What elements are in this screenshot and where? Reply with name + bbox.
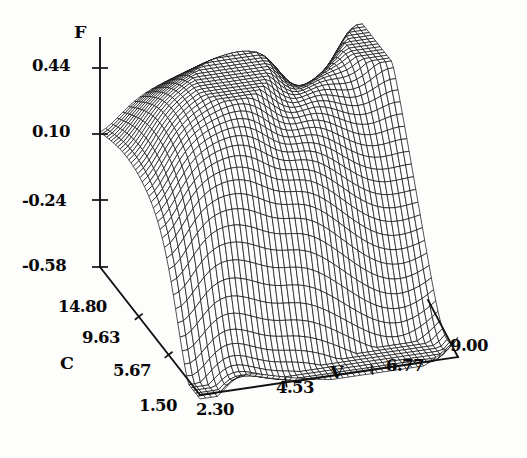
f-tick-label-1: 0.10 [32,124,70,141]
v-tick-label-2: 6.77 [386,358,424,375]
c-axis-label: C [60,355,74,373]
surface-plot-figure: F C V 0.44 0.10 -0.24 -0.58 14.80 9.63 5… [0,0,527,458]
c-tick-label-0: 14.80 [58,299,107,316]
v-tick-label-3: 9.00 [450,338,488,355]
surface-mesh [100,24,458,399]
f-tick-label-2: -0.24 [22,193,66,210]
v-tick-label-1: 4.53 [276,380,314,397]
plot-canvas [0,0,527,458]
c-tick-label-2: 5.67 [113,363,151,380]
f-tick-label-3: -0.58 [22,258,66,275]
f-axis-label: F [74,24,86,42]
c-tick-label-3: 1.50 [139,398,177,415]
v-axis-label: V [330,364,343,382]
f-tick-label-0: 0.44 [32,58,70,75]
c-tick-label-1: 9.63 [82,330,120,347]
v-tick-label-0: 2.30 [196,402,234,419]
